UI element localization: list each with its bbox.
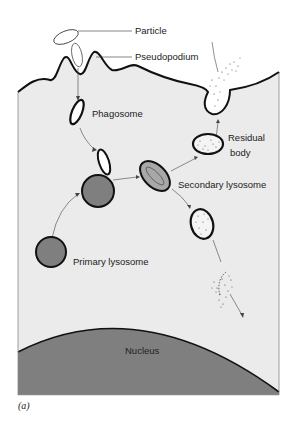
label-secondary-lysosome: Secondary lysosome [178,179,266,190]
label-primary-lysosome: Primary lysosome [73,256,149,267]
figure-caption: (a) [18,400,30,412]
label-nucleus: Nucleus [125,345,160,356]
phagocytosis-diagram: Particle Pseudopodium Phagosome Residual… [0,0,299,430]
label-residual-body-2: body [230,147,251,158]
label-particle: Particle [135,25,167,36]
arrow-exocytosis-up [212,42,218,72]
label-residual-body-1: Residual [228,132,265,143]
primary-lysosome [36,237,66,267]
label-pseudopodium: Pseudopodium [135,51,198,62]
cell [18,52,279,395]
particle [52,27,81,48]
fusing-lysosome [82,175,114,207]
residual-body [193,134,223,154]
label-phagosome: Phagosome [92,108,143,119]
